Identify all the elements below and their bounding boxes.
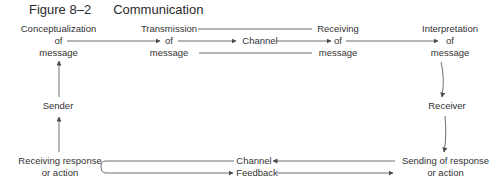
- arrow-interpretation-to-receiver: [441, 62, 443, 97]
- connector-arrows: [0, 0, 498, 187]
- arrow-receiver-to-sending: [444, 116, 446, 152]
- bracket-channel-feedback: [101, 161, 234, 173]
